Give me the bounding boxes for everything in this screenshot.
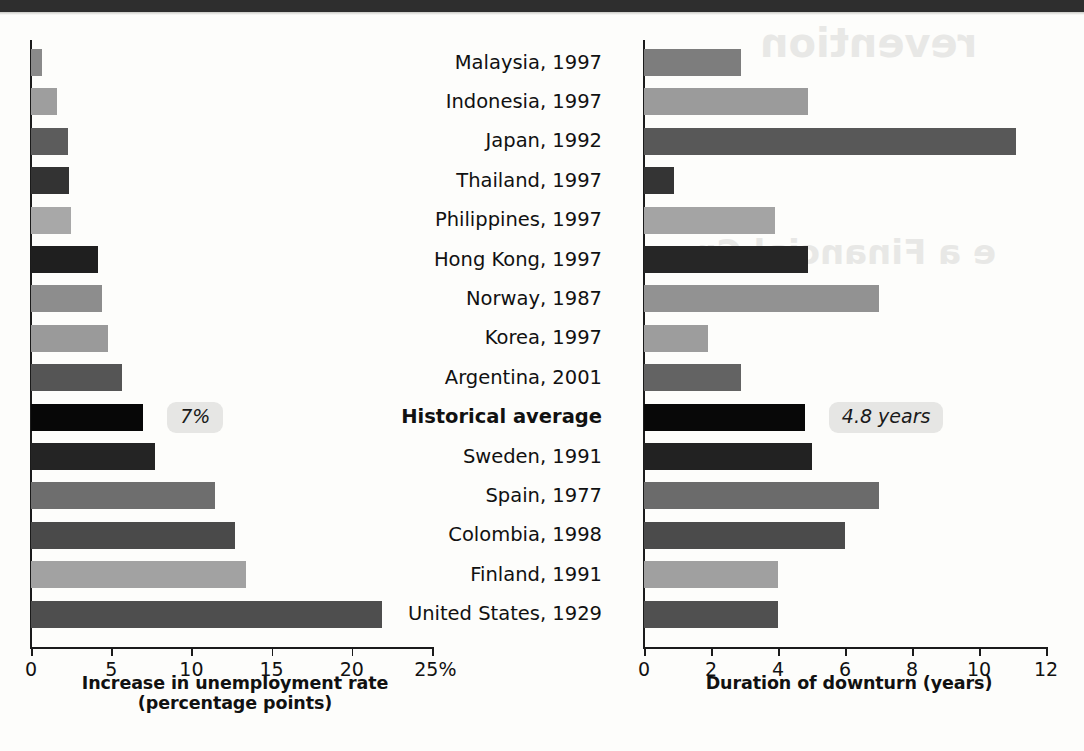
- x-axis-title-left: Increase in unemployment rate (percentag…: [0, 673, 470, 713]
- x-axis-line-left: [30, 647, 433, 649]
- x-axis-title-left-line1: Increase in unemployment rate: [82, 673, 388, 693]
- x-axis-title-left-line2: (percentage points): [0, 693, 470, 713]
- x-axis-tick: [778, 647, 780, 656]
- category-label: Historical average: [401, 407, 602, 427]
- chart-panel-right: 024681012 4.8 years Duration of downturn…: [614, 0, 1084, 751]
- plot-area-left: 0510152025% 7%: [31, 40, 432, 640]
- bar: [644, 404, 805, 431]
- x-axis-tick: [845, 647, 847, 656]
- bar: [31, 246, 98, 273]
- category-label: Argentina, 2001: [445, 368, 602, 388]
- plot-area-right: 024681012 4.8 years: [644, 40, 1046, 640]
- category-label: United States, 1929: [408, 604, 602, 624]
- bar: [31, 443, 155, 470]
- x-axis-tick: [912, 647, 914, 656]
- category-label: Sweden, 1991: [463, 447, 602, 467]
- bar: [644, 167, 674, 194]
- category-label: Indonesia, 1997: [446, 92, 602, 112]
- bar: [31, 285, 102, 312]
- bar: [31, 601, 382, 628]
- category-label: Thailand, 1997: [456, 171, 602, 191]
- category-label: Spain, 1977: [485, 486, 602, 506]
- x-axis-title-right: Duration of downturn (years): [614, 673, 1084, 693]
- bar: [31, 207, 71, 234]
- category-label: Korea, 1997: [485, 328, 602, 348]
- x-axis-tick: [111, 647, 113, 656]
- bar: [644, 207, 775, 234]
- callout-right: 4.8 years: [829, 402, 944, 433]
- bar: [31, 404, 143, 431]
- bar: [644, 88, 808, 115]
- callout-left: 7%: [167, 402, 223, 433]
- x-axis-title-right-line1: Duration of downturn (years): [706, 673, 993, 693]
- chart-page: reventione a Financial Cr 0510152025% 7%…: [0, 0, 1084, 751]
- category-label: Norway, 1987: [466, 289, 602, 309]
- chart-panel-left: 0510152025% 7% Increase in unemployment …: [0, 0, 470, 751]
- bar: [644, 561, 778, 588]
- category-label: Finland, 1991: [470, 565, 602, 585]
- x-axis-tick: [31, 647, 33, 656]
- bar: [644, 443, 812, 470]
- x-axis-tick: [644, 647, 646, 656]
- bar: [31, 325, 108, 352]
- bar: [644, 128, 1016, 155]
- category-label: Malaysia, 1997: [455, 53, 602, 73]
- x-axis-tick: [191, 647, 193, 656]
- category-label: Hong Kong, 1997: [434, 250, 602, 270]
- bar: [31, 88, 57, 115]
- category-label: Colombia, 1998: [448, 525, 602, 545]
- bar: [644, 482, 879, 509]
- x-axis-tick: [272, 647, 274, 656]
- bar: [31, 482, 215, 509]
- bar: [644, 522, 845, 549]
- x-axis-tick: [432, 647, 434, 656]
- bar: [31, 49, 42, 76]
- bar: [644, 325, 708, 352]
- bar: [31, 128, 68, 155]
- bar: [644, 601, 778, 628]
- bar: [644, 285, 879, 312]
- bar: [31, 561, 246, 588]
- x-axis-tick: [711, 647, 713, 656]
- category-label: Philippines, 1997: [435, 210, 602, 230]
- bar: [644, 364, 741, 391]
- category-label-column: Malaysia, 1997Indonesia, 1997Japan, 1992…: [432, 40, 614, 640]
- x-axis-tick: [1046, 647, 1048, 656]
- bar: [644, 49, 741, 76]
- category-label: Japan, 1992: [486, 131, 602, 151]
- bar: [31, 522, 235, 549]
- bar: [644, 246, 808, 273]
- bar: [31, 167, 69, 194]
- x-axis-tick: [979, 647, 981, 656]
- bar: [31, 364, 122, 391]
- x-axis-tick: [352, 647, 354, 656]
